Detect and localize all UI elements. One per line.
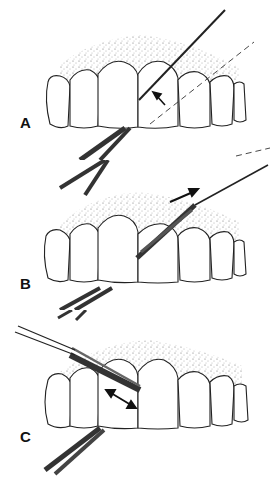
panel-a: A bbox=[0, 0, 274, 160]
floss-strand bbox=[55, 430, 104, 474]
floss-threader bbox=[195, 165, 268, 205]
panel-label-a: A bbox=[20, 114, 31, 131]
panel-label-b: B bbox=[20, 275, 31, 292]
panel-b: B bbox=[0, 160, 274, 310]
floss-strand bbox=[58, 310, 72, 318]
panel-a-illustration bbox=[0, 0, 274, 160]
panel-label-c: C bbox=[20, 428, 31, 445]
floss-threader bbox=[18, 326, 75, 350]
panel-c-illustration bbox=[0, 310, 274, 479]
floss-threader bbox=[15, 332, 75, 355]
panel-b-illustration bbox=[0, 160, 274, 310]
floss-strand bbox=[76, 310, 86, 320]
path-guide-line-end bbox=[236, 148, 270, 156]
arrow-icon bbox=[170, 189, 198, 202]
panel-c: C bbox=[0, 310, 274, 479]
floss-strand bbox=[45, 428, 100, 470]
